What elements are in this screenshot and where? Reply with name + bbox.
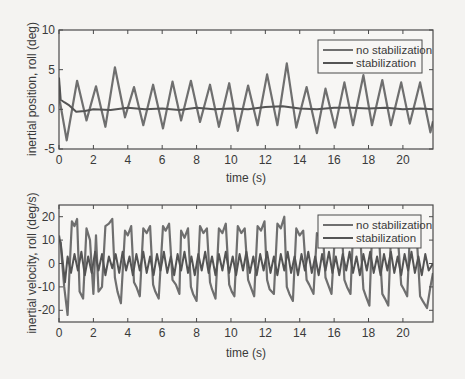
y-tick-label: -10 xyxy=(38,280,56,294)
legend-entry: stabilization xyxy=(356,57,416,69)
y-axis-label: inertial velocity, roll (deg/s) xyxy=(25,192,39,333)
x-tick-label: 18 xyxy=(362,326,376,340)
y-tick-label: 10 xyxy=(42,23,56,37)
y-tick-label: 20 xyxy=(42,210,56,224)
x-tick-label: 0 xyxy=(56,326,63,340)
x-tick-label: 14 xyxy=(293,153,307,167)
legend-entry: no stabilization xyxy=(356,219,432,231)
figure: 02468101214161820-50510time (s)inertial … xyxy=(0,0,465,379)
y-tick-label: 5 xyxy=(48,63,55,77)
x-tick-label: 12 xyxy=(259,153,273,167)
y-tick-label: -20 xyxy=(38,303,56,317)
legend-entry: no stabilization xyxy=(356,44,432,56)
x-tick-label: 16 xyxy=(327,326,341,340)
x-tick-label: 0 xyxy=(56,153,63,167)
y-tick-label: -5 xyxy=(44,142,55,156)
roll-position-plot: 02468101214161820-50510time (s)inertial … xyxy=(25,22,433,185)
x-tick-label: 6 xyxy=(159,153,166,167)
y-tick-label: 10 xyxy=(42,233,56,247)
x-tick-label: 8 xyxy=(193,153,200,167)
roll-velocity-plot: 02468101214161820-20-1001020time (s)iner… xyxy=(25,192,433,360)
legend: no stabilizationstabilization xyxy=(318,215,432,248)
x-tick-label: 4 xyxy=(124,153,131,167)
x-tick-label: 18 xyxy=(362,153,376,167)
y-tick-label: 0 xyxy=(48,257,55,271)
x-tick-label: 20 xyxy=(396,326,410,340)
x-axis-label: time (s) xyxy=(226,346,266,360)
x-tick-label: 20 xyxy=(396,153,410,167)
legend-entry: stabilization xyxy=(356,232,416,244)
x-tick-label: 10 xyxy=(224,153,238,167)
x-tick-label: 14 xyxy=(293,326,307,340)
x-tick-label: 2 xyxy=(90,153,97,167)
legend: no stabilizationstabilization xyxy=(318,40,432,73)
y-axis-label: inertial position, roll (deg) xyxy=(25,22,39,156)
x-tick-label: 6 xyxy=(159,326,166,340)
x-tick-label: 16 xyxy=(327,153,341,167)
y-tick-label: 0 xyxy=(48,102,55,116)
x-tick-label: 12 xyxy=(259,326,273,340)
x-tick-label: 10 xyxy=(224,326,238,340)
x-tick-label: 2 xyxy=(90,326,97,340)
x-tick-label: 8 xyxy=(193,326,200,340)
x-axis-label: time (s) xyxy=(226,171,266,185)
x-tick-label: 4 xyxy=(124,326,131,340)
